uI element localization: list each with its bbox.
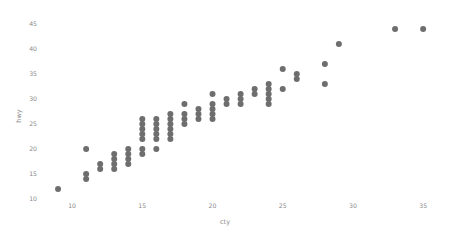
data-point [392,26,398,32]
y-tick-label: 35 [29,70,37,77]
data-point [266,86,272,92]
x-tick-label: 15 [138,202,146,209]
data-point [238,101,244,107]
data-point [167,136,173,142]
x-tick-label: 35 [419,202,427,209]
data-point [97,166,103,172]
data-point [181,111,187,117]
data-point [252,86,258,92]
data-point [280,86,286,92]
data-point [83,146,89,152]
data-point [210,101,216,107]
data-point [210,116,216,122]
data-point [238,91,244,97]
data-point [322,81,328,87]
plot-canvas: 1015202530354045 101520253035 cty hwy [0,0,450,233]
data-point [420,26,426,32]
y-tick-label: 25 [29,120,37,127]
data-point [139,116,145,122]
data-point [111,166,117,172]
data-point [210,91,216,97]
data-point [111,156,117,162]
data-point [181,101,187,107]
y-tick-label: 15 [29,170,37,177]
data-point [195,106,201,112]
y-tick-label: 10 [29,195,37,202]
y-tick-label: 45 [29,20,37,27]
data-point [83,176,89,182]
y-tick-label: 40 [29,45,37,52]
data-point [322,61,328,67]
x-tick-label: 30 [349,202,357,209]
data-point [153,136,159,142]
data-point [153,126,159,132]
data-point [294,76,300,82]
data-point [167,111,173,117]
y-tick-label: 30 [29,95,37,102]
data-point [139,146,145,152]
data-point [139,136,145,142]
x-tick-label: 25 [279,202,287,209]
y-tick-label: 20 [29,145,37,152]
data-point [280,66,286,72]
x-tick-label: 20 [209,202,217,209]
data-point [195,116,201,122]
data-point [266,96,272,102]
data-point [125,156,131,162]
data-point [224,96,230,102]
data-point [336,41,342,47]
y-axis-title: hwy [15,109,23,123]
plot-background [0,0,450,233]
x-axis-title: cty [220,218,230,226]
data-point [181,121,187,127]
data-point [55,186,61,192]
data-point [153,146,159,152]
x-tick-label: 10 [68,202,76,209]
scatter-plot-figure: 1015202530354045 101520253035 cty hwy [0,0,450,233]
